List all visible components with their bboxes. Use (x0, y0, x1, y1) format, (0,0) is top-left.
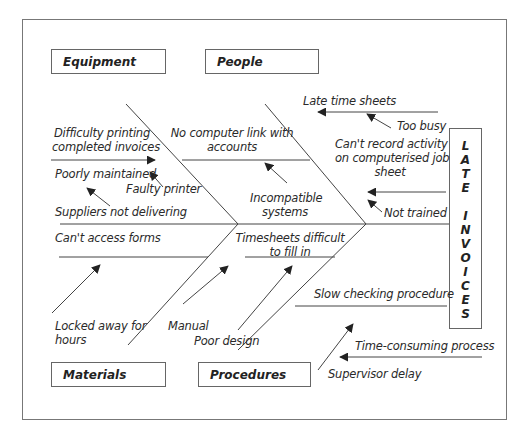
effect-letter: S (461, 307, 470, 321)
cause-time-consuming: Time-consuming process (355, 339, 494, 353)
cause-incompatible-systems: Incompatible systems (250, 191, 320, 219)
effect-letter: L (462, 139, 470, 153)
effect-letter: T (461, 167, 469, 181)
cause-cant-access-forms: Can't access forms (55, 231, 161, 245)
cause-line: Can't record activity (335, 137, 445, 151)
effect-letter: E (461, 293, 469, 307)
cause-line: Locked away for (55, 319, 146, 333)
category-label: Procedures (210, 368, 286, 382)
category-equipment: Equipment (51, 49, 166, 74)
cause-line: No computer link with (167, 126, 297, 140)
cause-slow-checking: Slow checking procedure (314, 287, 454, 301)
cause-line: hours (55, 333, 146, 347)
effect-letter: V (461, 237, 470, 251)
cause-manual: Manual (168, 319, 209, 333)
cause-line: Difficulty printing (52, 126, 152, 140)
category-materials: Materials (51, 362, 166, 387)
cause-line: on computerised job (335, 151, 445, 165)
cause-line: completed invoices (52, 140, 152, 154)
effect-letter: A (461, 153, 470, 167)
effect-letter: E (461, 181, 469, 195)
cause-not-trained: Not trained (384, 206, 447, 220)
cause-line: Incompatible (250, 191, 320, 205)
cause-line: systems (250, 205, 320, 219)
effect-letter: I (463, 209, 467, 223)
category-label: Equipment (63, 55, 136, 69)
category-label: Materials (63, 368, 126, 382)
cause-line: Timesheets difficult (235, 231, 345, 245)
cause-timesheets-difficult: Timesheets difficult to fill in (235, 231, 345, 259)
cause-suppliers-not-delivering: Suppliers not delivering (55, 205, 187, 219)
effect-letter: I (463, 265, 467, 279)
cause-faulty-printer: Faulty printer (126, 182, 201, 196)
category-label: People (217, 55, 263, 69)
cause-difficulty-printing: Difficulty printing completed invoices (52, 126, 152, 154)
cause-locked-away: Locked away for hours (55, 319, 146, 347)
cause-supervisor-delay: Supervisor delay (328, 367, 421, 381)
cause-line: sheet (335, 165, 445, 179)
effect-letter: C (461, 279, 470, 293)
cause-late-time-sheets: Late time sheets (303, 94, 396, 108)
cause-line: to fill in (235, 245, 345, 259)
cause-no-computer-link: No computer link with accounts (167, 126, 297, 154)
category-people: People (205, 49, 319, 74)
cause-cant-record-activity: Can't record activity on computerised jo… (335, 137, 445, 179)
cause-line: accounts (167, 140, 297, 154)
category-procedures: Procedures (198, 362, 311, 387)
effect-letter: O (460, 251, 470, 265)
effect-letter: N (460, 223, 470, 237)
cause-poor-design: Poor design (194, 334, 259, 348)
cause-too-busy: Too busy (397, 119, 446, 133)
cause-poorly-maintained: Poorly maintained (55, 167, 156, 181)
